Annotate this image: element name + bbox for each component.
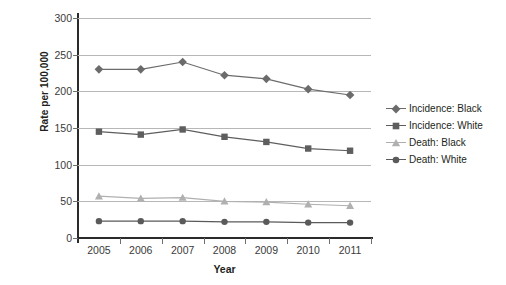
legend-item-label: Death: White xyxy=(406,154,467,165)
data-point-diamond-marker xyxy=(262,75,271,84)
data-point-square-marker xyxy=(221,134,227,140)
data-point-diamond-marker xyxy=(136,65,145,74)
data-point-diamond-marker xyxy=(178,58,187,67)
data-point-circle-marker xyxy=(179,218,185,224)
data-point-circle-marker xyxy=(263,219,269,225)
data-point-circle-marker xyxy=(138,218,144,224)
legend-item[interactable]: Death: Black xyxy=(386,134,504,151)
legend-item[interactable]: Incidence: Black xyxy=(386,100,504,117)
x-tick-label: 2006 xyxy=(118,244,164,256)
y-tick-label: 300 xyxy=(42,13,72,23)
legend-circle-icon xyxy=(386,153,406,167)
legend-marker xyxy=(391,138,401,148)
chart-figure: Rate per 100,000 050100150200250300 2005… xyxy=(0,0,506,285)
legend-item-label: Incidence: Black xyxy=(406,103,482,114)
data-point-diamond-marker xyxy=(346,91,355,100)
y-tick-label: 0 xyxy=(42,233,72,243)
chart-legend: Incidence: BlackIncidence: WhiteDeath: B… xyxy=(386,100,504,168)
y-tick-label: 200 xyxy=(42,86,72,96)
data-point-circle-marker xyxy=(221,219,227,225)
data-point-circle-marker xyxy=(96,218,102,224)
legend-item[interactable]: Death: White xyxy=(386,151,504,168)
x-axis-title: Year xyxy=(78,263,371,275)
y-axis-tick-labels: 050100150200250300 xyxy=(42,0,72,285)
legend-item-label: Incidence: White xyxy=(406,120,483,131)
data-point-diamond-marker xyxy=(220,71,229,80)
legend-triangle-icon xyxy=(386,136,406,150)
y-tick-mark xyxy=(73,238,78,239)
data-point-square-marker xyxy=(179,126,185,132)
data-point-diamond-marker xyxy=(304,85,313,94)
y-tick-label: 50 xyxy=(42,196,72,206)
series-line xyxy=(99,129,350,150)
data-point-square-marker xyxy=(96,128,102,134)
data-point-square-marker xyxy=(138,131,144,137)
y-tick-label: 100 xyxy=(42,160,72,170)
y-tick-label: 150 xyxy=(42,123,72,133)
series-death-black xyxy=(95,192,354,209)
x-tick-label: 2005 xyxy=(76,244,122,256)
data-point-circle-marker xyxy=(305,219,311,225)
legend-marker xyxy=(391,155,401,165)
series-layer xyxy=(78,18,371,238)
x-tick-label: 2009 xyxy=(243,244,289,256)
legend-item[interactable]: Incidence: White xyxy=(386,117,504,134)
x-tick-label: 2011 xyxy=(327,244,373,256)
y-tick-label: 250 xyxy=(42,50,72,60)
data-point-square-marker xyxy=(347,148,353,154)
series-incidence-white xyxy=(96,126,354,154)
data-point-circle-marker xyxy=(347,219,353,225)
data-point-diamond-marker xyxy=(95,65,104,74)
legend-marker xyxy=(391,121,401,131)
data-point-square-marker xyxy=(305,145,311,151)
legend-marker xyxy=(391,104,401,114)
series-death-white xyxy=(96,218,354,226)
x-tick-label: 2008 xyxy=(202,244,248,256)
legend-diamond-icon xyxy=(386,102,406,116)
x-tick-label: 2007 xyxy=(160,244,206,256)
plot-area xyxy=(78,18,371,238)
legend-square-icon xyxy=(386,119,406,133)
series-incidence-black xyxy=(95,58,355,100)
legend-item-label: Death: Black xyxy=(406,137,466,148)
x-tick-label: 2010 xyxy=(285,244,331,256)
data-point-square-marker xyxy=(263,139,269,145)
